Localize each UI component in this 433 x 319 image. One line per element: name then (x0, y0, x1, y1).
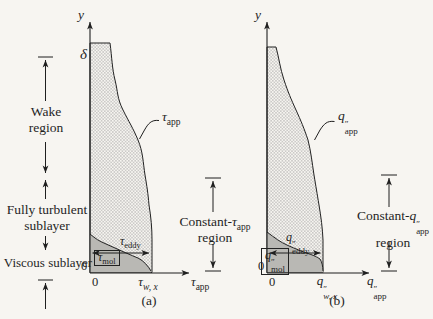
panel-a-wall-shear-tick-label: τw, x (138, 275, 157, 289)
layer-extent-arrows (38, 57, 53, 309)
viscous-sublayer-label: Viscous sublayer (4, 256, 92, 270)
constant-tau-region-label: Constant-τapp region (179, 214, 250, 245)
panel-b-eddy-label: q″eddy (286, 231, 310, 255)
panel-b-mol-label: q″mol (261, 248, 289, 275)
boundary-layer-figure: y δ 0 0 τw, x τapp τapp τeddy τmol (a) y… (0, 0, 433, 319)
panel-a-caption: (a) (142, 294, 157, 309)
figure-canvas (0, 0, 433, 319)
panel-b-x-axis-label: q″app (367, 274, 387, 300)
panel-b-curve-label: q″app (338, 109, 358, 135)
panel-a-curve-leader-line (140, 120, 160, 139)
panel-b-y-axis-label: y (255, 8, 261, 23)
panel-a-delta-label: δ (80, 46, 87, 63)
panel-b-curve-leader-line (315, 121, 335, 140)
panel-a-origin-x-zero: 0 (92, 276, 98, 290)
constant-q-region-label: Constant-q″app region (357, 208, 429, 251)
fully-turbulent-sublayer-label: Fully turbulent sublayer (7, 202, 88, 233)
panel-a-curve-label: τapp (162, 110, 181, 125)
panel-a-x-axis-label: τapp (191, 275, 209, 289)
panel-a-eddy-label: τeddy (120, 235, 141, 248)
panel-b-origin-x-zero: 0 (269, 276, 275, 290)
wake-region-label: Wake region (29, 104, 64, 135)
panel-a-y-axis-label: y (78, 8, 84, 23)
panel-b-caption: (b) (329, 294, 345, 309)
panel-a-mol-label: τmol (94, 250, 120, 266)
